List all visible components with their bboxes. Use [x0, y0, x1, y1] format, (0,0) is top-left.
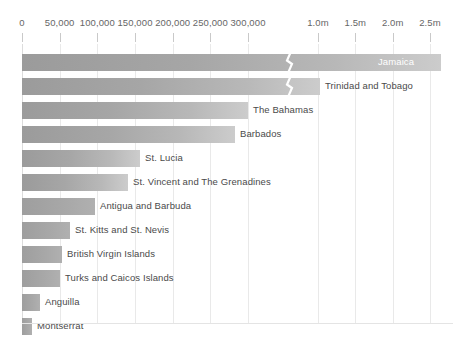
- bar-row[interactable]: Montserrat: [0, 315, 461, 338]
- bar-row[interactable]: Jamaica: [0, 51, 461, 74]
- bar-row[interactable]: St. Vincent and The Grenadines: [0, 171, 461, 194]
- x-axis-tick: [248, 33, 249, 42]
- x-axis-tick: [22, 33, 23, 42]
- x-axis-tick: [318, 33, 319, 42]
- bar[interactable]: [22, 318, 32, 335]
- bar-row[interactable]: St. Lucia: [0, 147, 461, 170]
- bar-label: The Bahamas: [253, 104, 313, 115]
- bar-label: Antigua and Barbuda: [100, 200, 191, 211]
- x-axis-tick-label: 100,000: [80, 17, 115, 28]
- x-axis-tick-label: 2.0m: [382, 17, 404, 28]
- bar-row[interactable]: British Virgin Islands: [0, 243, 461, 266]
- x-axis-tick: [430, 33, 431, 42]
- bar-row[interactable]: The Bahamas: [0, 99, 461, 122]
- x-axis-tick-label: 300,000: [230, 17, 265, 28]
- bar-label: British Virgin Islands: [67, 248, 155, 259]
- bar[interactable]: [22, 174, 128, 191]
- bar-row[interactable]: St. Kitts and St. Nevis: [0, 219, 461, 242]
- bar[interactable]: [22, 126, 235, 143]
- x-axis-tick: [97, 33, 98, 42]
- x-axis-tick-label: 200,000: [155, 17, 190, 28]
- x-axis-tick-label: 2.5m: [419, 17, 441, 28]
- x-axis-tick: [135, 33, 136, 42]
- x-axis-tick: [210, 33, 211, 42]
- bar[interactable]: [22, 270, 60, 287]
- bar[interactable]: [22, 294, 40, 311]
- x-axis-tick: [60, 33, 61, 42]
- x-axis-tick-label: 50,000: [45, 17, 75, 28]
- bar-row[interactable]: Anguilla: [0, 291, 461, 314]
- x-axis-tick-label: 150,000: [117, 17, 152, 28]
- x-axis-tick: [355, 33, 356, 42]
- bar[interactable]: [22, 198, 95, 215]
- x-axis-tick-label: 250,000: [193, 17, 228, 28]
- bar-row[interactable]: Barbados: [0, 123, 461, 146]
- bar[interactable]: [22, 78, 320, 95]
- x-axis-tick-label: 1.0m: [307, 17, 329, 28]
- bar-row[interactable]: Turks and Caicos Islands: [0, 267, 461, 290]
- horizontal-bar-chart: 050,000100,000150,000200,000250,000300,0…: [0, 0, 461, 349]
- bar-label: St. Lucia: [145, 152, 183, 163]
- x-axis-tick-label: 1.5m: [345, 17, 367, 28]
- x-axis-baseline: [22, 323, 453, 324]
- bar[interactable]: [22, 222, 70, 239]
- bar-label: St. Vincent and The Grenadines: [133, 176, 271, 187]
- bar-row[interactable]: Antigua and Barbuda: [0, 195, 461, 218]
- x-axis-tick-label: 0: [19, 17, 24, 28]
- bar-label: Trinidad and Tobago: [325, 80, 413, 91]
- bar-label: Jamaica: [378, 56, 414, 67]
- plot-area: 050,000100,000150,000200,000250,000300,0…: [0, 0, 461, 349]
- x-axis-tick: [393, 33, 394, 42]
- bar-label: Barbados: [240, 128, 281, 139]
- bar[interactable]: [22, 102, 248, 119]
- bar[interactable]: [22, 246, 62, 263]
- bar-label: Anguilla: [45, 296, 80, 307]
- bar-label: St. Kitts and St. Nevis: [75, 224, 169, 235]
- bar-label: Montserrat: [37, 320, 83, 331]
- bar-label: Turks and Caicos Islands: [65, 272, 174, 283]
- bar-row[interactable]: Trinidad and Tobago: [0, 75, 461, 98]
- bar[interactable]: [22, 150, 140, 167]
- x-axis-tick: [173, 33, 174, 42]
